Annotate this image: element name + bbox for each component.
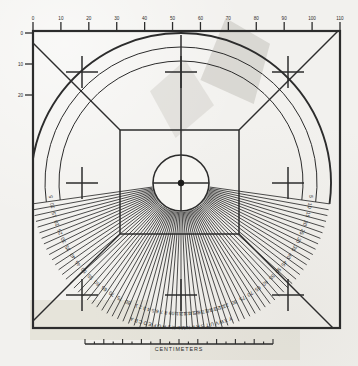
degree-label-left: 5 (48, 195, 54, 199)
crosshair-mid-right (272, 167, 304, 199)
degree-label-right: 80 (230, 299, 238, 307)
degree-label-right: 25 (299, 228, 307, 236)
left-axis-tick-label: 20 (18, 93, 24, 98)
calibration-chart-figure: 0102030405060708090100110 01020 51015202… (0, 0, 358, 366)
degree-label-left: 60 (93, 279, 101, 287)
top-axis-tick-label: 30 (114, 16, 120, 21)
top-axis-tick-label: 40 (142, 16, 148, 21)
top-axis-tick-label: 60 (198, 16, 204, 21)
top-axis-tick-label: 110 (336, 16, 344, 21)
bottom-arc-label-outer: F (153, 322, 157, 328)
top-axis-tick-label: 80 (254, 16, 260, 21)
top-axis-tick-label: 50 (170, 16, 176, 21)
degree-label-right: 10 (307, 202, 314, 209)
degree-label-left: 25 (56, 228, 64, 236)
scale-bar-ticks (85, 339, 273, 344)
left-axis-tick-label: 10 (18, 62, 24, 67)
chart-canvas: 0102030405060708090100110 01020 51015202… (0, 0, 358, 366)
degree-label-left: 10 (49, 202, 56, 209)
scale-bar-label: CENTIMETERS (155, 346, 204, 352)
bottom-arc-label-outer: N (186, 325, 190, 331)
top-axis-tick-label: 20 (86, 16, 92, 21)
top-axis-ticks: 0102030405060708090100110 (32, 16, 344, 31)
radial-spoke (35, 189, 153, 215)
bottom-arc-label-outer: R (195, 324, 200, 330)
crosshair-top-right (272, 56, 304, 88)
centimeter-scale-bar: CENTIMETERS (85, 339, 273, 352)
degree-label-right: 40 (285, 252, 293, 260)
degree-label-left: 80 (124, 299, 132, 307)
degree-label-left: 30 (59, 236, 67, 244)
degree-label-right: 60 (261, 279, 269, 287)
top-axis-tick-label: 70 (226, 16, 232, 21)
degree-label-right: 70 (246, 290, 254, 298)
left-axis-tick-label: 0 (20, 31, 23, 36)
degree-label-left: 70 (107, 290, 115, 298)
bottom-arc-label-outer: G (157, 323, 162, 330)
bottom-arc-label-outer: A (128, 316, 134, 323)
top-axis-tick-label: 10 (58, 16, 64, 21)
bottom-arc-label-inner: 1 (134, 303, 139, 310)
top-axis-tick-label: 100 (308, 16, 316, 21)
center-hub-dot (178, 180, 184, 186)
top-axis-tick-label: 90 (282, 16, 288, 21)
crosshair-bottom-center (165, 279, 197, 311)
radial-spoke (49, 197, 155, 255)
top-axis-tick-label: 0 (32, 16, 35, 21)
degree-label-right: 35 (290, 244, 298, 252)
bottom-arc-label-inner: 8 (164, 310, 168, 316)
degree-label-left: 35 (63, 244, 71, 252)
degree-label-right: 5 (308, 195, 314, 199)
crosshair-bottom-right (272, 279, 304, 311)
bottom-arc-label-outer: L (177, 325, 180, 331)
degree-label-right: 15 (304, 211, 311, 218)
crosshair-top-center (165, 56, 197, 88)
degree-label-right: 30 (295, 237, 303, 245)
left-axis-ticks: 01020 (18, 31, 33, 98)
crosshair-mid-left (66, 167, 98, 199)
bottom-arc-label-outer: M (181, 325, 185, 331)
degree-label-left: 40 (68, 252, 76, 260)
degree-label-left: 55 (86, 273, 94, 281)
degree-label-right: 55 (268, 273, 276, 281)
bottom-arc-label-inner: 9 (168, 310, 171, 316)
